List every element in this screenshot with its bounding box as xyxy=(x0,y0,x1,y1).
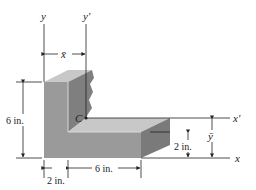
x-bar-label: x̄ xyxy=(60,48,66,60)
x-prime-axis-label: x′ xyxy=(232,112,241,124)
centroid-point xyxy=(84,116,87,119)
x-axis-label: x xyxy=(234,152,240,164)
y-axis-label: y xyxy=(40,10,46,22)
centroid-label: C xyxy=(75,112,83,124)
base-thickness-dimension-label: 2 in. xyxy=(174,141,192,152)
height-dimension-label: 6 in. xyxy=(6,115,24,126)
l-section-centroid-diagram: y y′ x̄ x′ x ȳ C 6 in. 2 in. 6 in. 2 in… xyxy=(0,0,256,190)
l-shaped-solid xyxy=(44,70,170,158)
y-prime-axis-label: y′ xyxy=(82,10,91,22)
leg-width-dimension-label: 2 in. xyxy=(47,175,65,186)
base-length-dimension-label: 6 in. xyxy=(95,163,113,174)
